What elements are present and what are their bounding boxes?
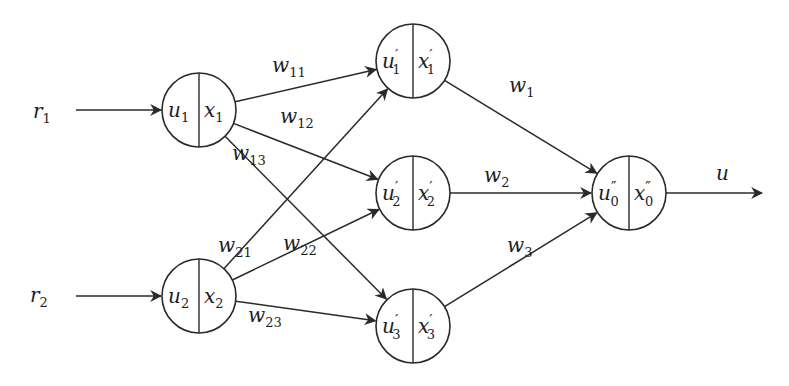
weight-label-w21-subscript: 21	[235, 245, 252, 260]
weight-label-w3-subscript: 3	[524, 245, 532, 260]
node-h2-input-label-subscript: 2	[392, 194, 400, 209]
input-label-r2-subscript: 2	[40, 295, 48, 310]
node-n1-output-label-subscript: 1	[215, 110, 223, 125]
input-node-n2: u2x2	[162, 259, 236, 333]
input-label-r1-subscript: 1	[43, 111, 51, 126]
node-h3-input-label-subscript: 3	[392, 327, 400, 342]
weight-label-w12-subscript: 12	[297, 116, 314, 131]
node-n1-output-label-base: x	[204, 98, 215, 122]
input-node-n1: u1x1	[162, 73, 236, 147]
node-h3-output-label-subscript: 3	[427, 327, 435, 342]
weight-label-w23-subscript: 23	[265, 315, 282, 330]
weight-label-w13-subscript: 13	[249, 153, 266, 168]
node-n2-output-label-subscript: 2	[215, 296, 223, 311]
weight-label-w3-base: w	[507, 233, 524, 257]
weight-label-w11: w11	[272, 53, 306, 80]
output-node-out: u″0x″0	[592, 156, 666, 230]
input-label-r2: r2	[30, 283, 48, 310]
node-out-input-label-base: u	[598, 181, 611, 205]
weight-label-w23-base: w	[248, 303, 265, 327]
weight-label-w2: w2	[484, 163, 509, 190]
weight-label-w12: w12	[280, 104, 314, 131]
node-out-output-label-base: x	[634, 181, 645, 205]
hidden-node-h2: u′2x′2	[376, 156, 450, 230]
weight-label-w2-base: w	[484, 163, 501, 187]
node-h2-input-label: u′2	[382, 178, 401, 209]
weight-label-w22-subscript: 22	[300, 243, 317, 258]
node-h1-input-label: u′1	[382, 46, 401, 77]
node-h2-output-label-subscript: 2	[427, 194, 435, 209]
weight-label-w12-base: w	[280, 104, 297, 128]
edge-n1-h2	[233, 123, 377, 179]
node-h3-output-label: x′3	[418, 311, 435, 342]
node-out-input-label-subscript: 0	[611, 194, 619, 209]
weight-label-w1: w1	[509, 73, 534, 100]
node-h3-input-label: u′3	[382, 311, 401, 342]
weight-label-w11-subscript: 11	[289, 65, 306, 80]
neural-network-diagram: u1x1u2x2u′1x′1u′2x′2u′3x′3u″0x″0 w11w12w…	[0, 0, 789, 386]
hidden-node-h1: u′1x′1	[376, 24, 450, 98]
weight-label-w3: w3	[507, 233, 532, 260]
weight-label-w1-subscript: 1	[526, 85, 534, 100]
node-out-input-label: u″0	[598, 178, 619, 209]
node-n1-input-label-base: u	[168, 98, 181, 122]
node-h1-input-label-subscript: 1	[392, 62, 400, 77]
weight-label-w22: w22	[283, 231, 317, 258]
node-h1-output-label-subscript: 1	[427, 62, 435, 77]
output-label-u-base: u	[716, 161, 729, 185]
weight-label-w13: w13	[232, 141, 266, 168]
node-n2-output-label-base: x	[204, 284, 215, 308]
edge-h3-out	[445, 213, 597, 307]
input-label-r1: r1	[33, 99, 51, 126]
node-n2-input-label-subscript: 2	[181, 296, 189, 311]
node-out-output-label-subscript: 0	[645, 194, 653, 209]
node-h2-output-label: x′2	[418, 178, 435, 209]
weight-label-w2-subscript: 2	[501, 175, 509, 190]
node-n1-input-label-subscript: 1	[181, 110, 189, 125]
weight-label-w21-base: w	[218, 233, 235, 257]
weight-label-w21: w21	[218, 233, 252, 260]
output-label-u: u	[716, 161, 729, 185]
hidden-node-h3: u′3x′3	[376, 289, 450, 363]
weight-label-w13-base: w	[232, 141, 249, 165]
node-h1-output-label: x′1	[418, 46, 435, 77]
node-out-output-label: x″0	[634, 178, 653, 209]
weight-label-w1-base: w	[509, 73, 526, 97]
weight-label-w11-base: w	[272, 53, 289, 77]
node-n2-input-label-base: u	[168, 284, 181, 308]
weight-label-w22-base: w	[283, 231, 300, 255]
